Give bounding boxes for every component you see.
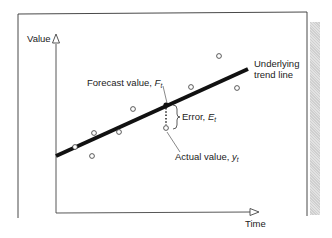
actual-value-label: Actual value, yt — [175, 151, 239, 165]
actual-leader-line — [167, 132, 180, 152]
observation-point — [189, 85, 194, 90]
forecast-subscript: t — [160, 82, 162, 89]
trend-line-label: Underlying trend line — [254, 58, 299, 80]
error-brace — [173, 105, 180, 129]
outer-frame — [18, 12, 307, 218]
observation-point — [164, 126, 169, 131]
x-axis — [56, 212, 250, 213]
y-axis-arrow-icon — [53, 34, 60, 43]
x-axis-label: Time — [245, 218, 266, 229]
actual-label-text: Actual value, — [175, 151, 232, 162]
forecast-error-diagram: Value Time Underlying trend line Forecas… — [0, 0, 332, 238]
forecast-label-text: Forecast value, — [87, 77, 155, 88]
forecast-leader-line — [163, 86, 167, 103]
actual-subscript: t — [237, 156, 239, 163]
observation-point — [117, 130, 122, 135]
forecast-point — [163, 102, 168, 107]
y-axis-label: Value — [27, 33, 51, 44]
forecast-value-label: Forecast value, Ft — [87, 77, 162, 91]
observation-point — [131, 107, 136, 112]
error-subscript: t — [214, 116, 216, 123]
trend-label-line1: Underlying — [254, 58, 299, 69]
observation-point — [73, 145, 78, 150]
trend-label-line2: trend line — [254, 69, 299, 80]
observation-point — [235, 86, 240, 91]
observation-point — [217, 54, 222, 59]
observation-point — [90, 154, 95, 159]
observation-points — [73, 54, 240, 159]
error-label: Error, Et — [182, 111, 216, 125]
x-axis-arrow-icon — [250, 209, 259, 216]
observation-point — [92, 131, 97, 136]
error-label-text: Error, — [182, 111, 208, 122]
